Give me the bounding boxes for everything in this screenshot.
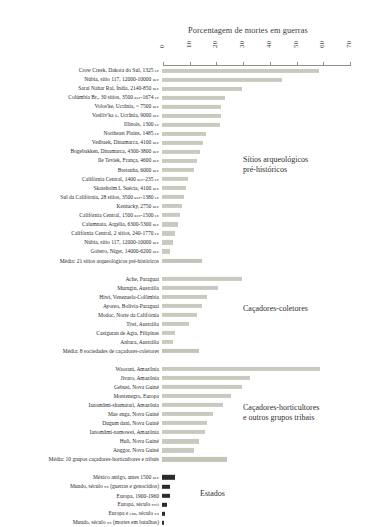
chart-title: Porcentagem de mortes em guerras (188, 26, 308, 35)
chart-row: Skateholm I, Suécia, 4100 aec (0, 184, 365, 193)
row-label: Média: 10 grupos caçadores-horticultores… (0, 456, 162, 462)
bar-cell (162, 138, 365, 147)
row-label: Média: 21 sítios arqueológicos pré-histó… (0, 258, 162, 264)
chart-row: Bogebakken, Dinamarca, 4300-3800 aec (0, 147, 365, 156)
bar (162, 448, 194, 452)
bar (162, 421, 207, 425)
bar (162, 403, 223, 407)
bar-cell (162, 75, 365, 84)
bar (162, 222, 178, 226)
bar-cell (162, 193, 365, 202)
bar (162, 439, 199, 443)
chart-row: Gobero, Níger, 14000-6200 aec (0, 247, 365, 256)
row-label: México antigo, antes 1500 aec (0, 474, 162, 481)
x-tick-label: 10 (185, 41, 193, 48)
bar (162, 249, 170, 253)
row-label: Ayoreo, Bolívia-Paraguai (0, 303, 162, 309)
row-label: Sarai Nahar Rai, Índia, 2140-850 aec (0, 85, 162, 92)
chart-rows: Crow Creek, Dakota do Sul, 1325 ecNúbia,… (0, 66, 365, 527)
bar (162, 340, 173, 344)
bar-cell (162, 518, 365, 527)
bar (162, 331, 175, 335)
bar (162, 213, 180, 217)
row-label: Núbia, sítio 117, 12000-10000 aec (0, 239, 162, 246)
bar (162, 412, 213, 416)
bar (162, 367, 320, 371)
group-gap (0, 464, 365, 473)
chart-row: Europa, século xvii (0, 500, 365, 509)
chart-row: Europa e eua, século xx (0, 509, 365, 518)
chart-row: Northeast Plains, 1485 ec (0, 129, 365, 138)
chart-row: Crow Creek, Dakota do Sul, 1325 ec (0, 66, 365, 75)
x-tick-label: 0 (158, 44, 166, 48)
bar (162, 150, 200, 154)
row-label: Califórnia Central, 2 sítios, 240-1770 e… (0, 230, 162, 237)
bar-cell (162, 455, 365, 464)
bar-cell (162, 274, 365, 283)
row-label: Vasiliv'ka ii, Ucrânia, 9000 aec (0, 112, 162, 119)
row-label: Núbia, sítio 117, 12000-10000 aec (0, 76, 162, 83)
bar-cell (162, 473, 365, 482)
chart-row: Illinois, 1300 ec (0, 120, 365, 129)
bar (162, 521, 164, 525)
row-label: Europa, século xvii (0, 501, 162, 508)
row-label: Anbara, Austrália (0, 339, 162, 345)
row-label: Mundo, século xx (mortes em batalhas) (0, 519, 162, 526)
bar (162, 457, 227, 461)
chart-row: Vasiliv'ka ii, Ucrânia, 9000 aec (0, 111, 365, 120)
chart-row: Casiguran de Agta, Filipinas (0, 328, 365, 337)
chart-row: Califórnia Central, 1500 aec-1500 ec (0, 211, 365, 220)
chart-row: Ache, Paraguai (0, 274, 365, 283)
bar (162, 195, 184, 199)
bar-cell (162, 437, 365, 446)
row-label: Gobero, Níger, 14000-6200 aec (0, 248, 162, 255)
bar (162, 114, 221, 118)
chart-row: Sarai Nahar Rai, Índia, 2140-850 aec (0, 84, 365, 93)
bar (162, 502, 167, 506)
row-label: Sul da Califórnia, 28 sítios, 3500 aec-1… (0, 194, 162, 201)
chart-row: Vedbaek, Dinamarca, 4100 aec (0, 138, 365, 147)
x-tick-label: 30 (238, 41, 246, 48)
chart-row: Mundo, século xx (guerras e genocídios) (0, 482, 365, 491)
chart-row: Volos'ke, Ucrânia, ~ 7500 aec (0, 102, 365, 111)
chart-row: Calumnata, Argélia, 6300-5300 aec (0, 220, 365, 229)
chart-row: Núbia, sítio 117, 12000-10000 aec (0, 75, 365, 84)
bar (162, 68, 319, 72)
bar-cell (162, 84, 365, 93)
bar (162, 141, 203, 145)
chart-row: Hiwi, Venezuela-Colômbia (0, 292, 365, 301)
row-label: Huli, Nova Guiné (0, 438, 162, 444)
bar (162, 258, 202, 262)
chart-row: Jívaro, Amazônia (0, 374, 365, 383)
bar (162, 123, 220, 127)
bar-cell (162, 346, 365, 355)
bar-cell (162, 238, 365, 247)
bar (162, 159, 197, 163)
bar-cell (162, 129, 365, 138)
bar (162, 240, 173, 244)
chart-row: Waorani, Amazônia (0, 364, 365, 373)
chart-row: Murngin, Austrália (0, 283, 365, 292)
row-label: Waorani, Amazônia (0, 366, 162, 372)
x-tick-label: 70 (345, 41, 353, 48)
group-gap (0, 355, 365, 364)
group-note: Caçadores-coletores (243, 304, 308, 314)
row-label: Mundo, século xx (guerras e genocídios) (0, 483, 162, 490)
bar-cell (162, 328, 365, 337)
chart-row: Gebusi, Nova Guiné (0, 383, 365, 392)
bar (162, 430, 205, 434)
row-label: Illinois, 1300 ec (0, 121, 162, 128)
row-label: Montenegro, Europa (0, 393, 162, 399)
chart-row: Europa, 1900-1960 (0, 491, 365, 500)
bar-cell (162, 247, 365, 256)
row-label: Europa e eua, século xx (0, 510, 162, 517)
row-label: Volos'ke, Ucrânia, ~ 7500 aec (0, 103, 162, 110)
bar-cell (162, 66, 365, 75)
bar (162, 231, 175, 235)
bar (162, 349, 199, 353)
chart-row: Huli, Nova Guiné (0, 437, 365, 446)
chart-row: Anggor, Nova Guiné (0, 446, 365, 455)
chart-row: Modoc, Norte da Califórnia (0, 310, 365, 319)
chart-row: Ianomâmi-namowei, Amazônia (0, 428, 365, 437)
